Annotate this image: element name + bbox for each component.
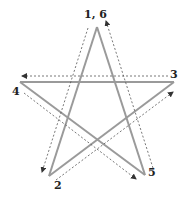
vertex-label-1-6: 1, 6 bbox=[84, 8, 107, 21]
star-lines bbox=[20, 27, 174, 176]
star-edge-5-1 bbox=[97, 27, 145, 175]
vertex-label-2: 2 bbox=[54, 179, 62, 192]
vertex-label-4: 4 bbox=[12, 85, 20, 98]
pentagram-diagram: 1, 6 2 3 4 5 bbox=[0, 0, 183, 198]
star-edge-2-3 bbox=[49, 82, 174, 176]
vertex-label-5: 5 bbox=[148, 166, 156, 179]
star-edge-4-5 bbox=[20, 82, 145, 175]
arrow-4-to-5 bbox=[24, 93, 136, 179]
arrow-1-to-2 bbox=[42, 28, 88, 172]
star-edge-1-2 bbox=[49, 27, 97, 176]
vertex-label-3: 3 bbox=[170, 68, 178, 81]
arrow-5-to-1 bbox=[106, 21, 153, 168]
